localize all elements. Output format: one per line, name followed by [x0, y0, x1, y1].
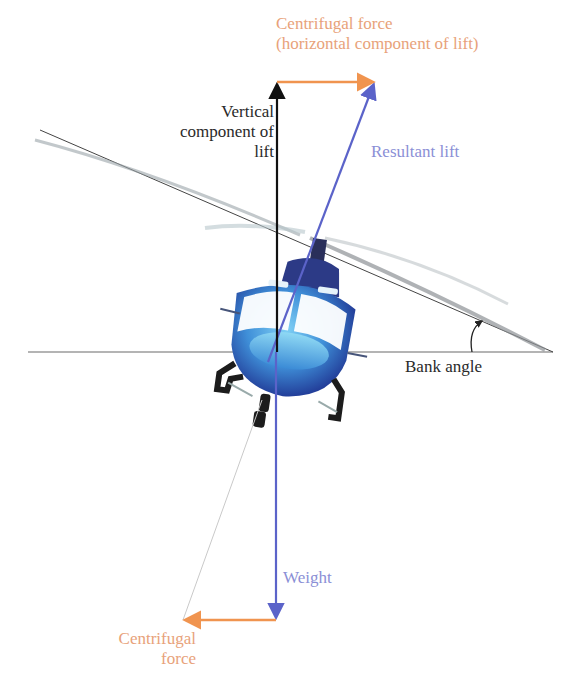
resultant-lift-label: Resultant lift	[371, 142, 459, 162]
centrifugal-top-line2: (horizontal component of lift)	[276, 34, 479, 54]
vertical-line3: lift	[170, 142, 274, 162]
vertical-line1: Vertical	[170, 102, 274, 122]
centrifugal-top-line1: Centrifugal force	[276, 14, 479, 34]
centrifugal-bottom-line2: force	[90, 649, 196, 669]
force-diagram	[0, 0, 580, 699]
centrifugal-bottom-line1: Centrifugal	[90, 629, 196, 649]
vertical-component-label: Vertical component of lift	[170, 102, 274, 162]
bank-angle-label: Bank angle	[405, 357, 482, 377]
rotor-blade-back-right	[325, 238, 508, 304]
vertical-line2: component of	[170, 122, 274, 142]
weight-label: Weight	[283, 568, 332, 588]
rotor-blade-back-left	[205, 226, 305, 232]
bank-angle-arc	[471, 321, 482, 352]
centrifugal-force-top-label: Centrifugal force (horizontal component …	[276, 14, 479, 54]
centrifugal-force-bottom-label: Centrifugal force	[90, 629, 196, 669]
resultant-extension-line	[183, 400, 262, 620]
